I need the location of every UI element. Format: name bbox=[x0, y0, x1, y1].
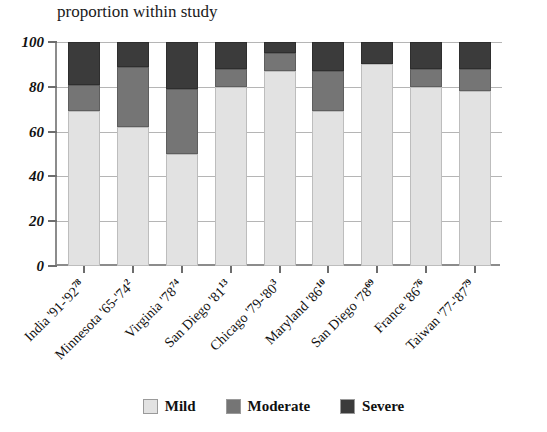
bar-group[interactable] bbox=[166, 42, 198, 266]
y-axis-tick bbox=[48, 265, 57, 267]
stacked-bar-chart: proportion within study 020406080100 Ind… bbox=[0, 0, 547, 432]
bar-segment-mild[interactable] bbox=[166, 154, 198, 266]
legend-item[interactable]: Mild bbox=[143, 398, 196, 415]
y-axis-tick bbox=[48, 131, 57, 133]
bar-segment-moderate[interactable] bbox=[459, 69, 491, 91]
bar-group[interactable] bbox=[312, 42, 344, 266]
y-axis-tick-label: 80 bbox=[29, 78, 44, 95]
bar-segment-moderate[interactable] bbox=[410, 69, 442, 87]
bar-group[interactable] bbox=[68, 42, 100, 266]
bar-segment-moderate[interactable] bbox=[312, 71, 344, 111]
bar-segment-severe[interactable] bbox=[215, 42, 247, 69]
bar-group[interactable] bbox=[410, 42, 442, 266]
bar-segment-severe[interactable] bbox=[361, 42, 393, 64]
y-axis-tick bbox=[48, 41, 57, 43]
legend-swatch-severe bbox=[340, 399, 355, 414]
legend-label: Moderate bbox=[248, 398, 310, 415]
bars-layer bbox=[57, 42, 502, 266]
legend-item[interactable]: Severe bbox=[340, 398, 404, 415]
legend-label: Mild bbox=[165, 398, 196, 415]
bar-segment-moderate[interactable] bbox=[166, 89, 198, 154]
y-axis-tick-label: 40 bbox=[29, 168, 44, 185]
legend-label: Severe bbox=[362, 398, 404, 415]
legend-item[interactable]: Moderate bbox=[226, 398, 310, 415]
bar-segment-severe[interactable] bbox=[264, 42, 296, 53]
bar-segment-mild[interactable] bbox=[68, 111, 100, 266]
bar-segment-mild[interactable] bbox=[117, 127, 149, 266]
bar-segment-moderate[interactable] bbox=[215, 69, 247, 87]
bar-segment-moderate[interactable] bbox=[117, 67, 149, 127]
bar-segment-severe[interactable] bbox=[117, 42, 149, 67]
y-axis-tick bbox=[48, 220, 57, 222]
bar-segment-moderate[interactable] bbox=[264, 53, 296, 71]
legend: MildModerateSevere bbox=[0, 398, 547, 415]
plot-area: 020406080100 bbox=[55, 42, 500, 266]
bar-segment-mild[interactable] bbox=[215, 87, 247, 266]
bar-group[interactable] bbox=[215, 42, 247, 266]
bar-group[interactable] bbox=[459, 42, 491, 266]
y-axis-tick-label: 100 bbox=[22, 34, 45, 51]
legend-swatch-mild bbox=[143, 399, 158, 414]
y-axis-tick bbox=[48, 86, 57, 88]
bar-group[interactable] bbox=[361, 42, 393, 266]
bar-segment-mild[interactable] bbox=[410, 87, 442, 266]
bar-segment-mild[interactable] bbox=[312, 111, 344, 266]
bar-segment-severe[interactable] bbox=[410, 42, 442, 69]
bar-segment-severe[interactable] bbox=[68, 42, 100, 85]
bar-segment-mild[interactable] bbox=[361, 64, 393, 266]
bar-group[interactable] bbox=[264, 42, 296, 266]
bar-segment-severe[interactable] bbox=[166, 42, 198, 89]
bar-segment-severe[interactable] bbox=[312, 42, 344, 71]
bar-group[interactable] bbox=[117, 42, 149, 266]
bar-segment-moderate[interactable] bbox=[68, 85, 100, 112]
x-axis-labels: India '91-'9278Minnesota '65-'742Virgini… bbox=[0, 268, 547, 388]
y-axis-tick bbox=[48, 175, 57, 177]
legend-swatch-moderate bbox=[226, 399, 241, 414]
y-axis-tick-label: 60 bbox=[29, 123, 44, 140]
chart-title: proportion within study bbox=[57, 2, 218, 22]
bar-segment-severe[interactable] bbox=[459, 42, 491, 69]
y-axis-tick-label: 20 bbox=[29, 213, 44, 230]
bar-segment-mild[interactable] bbox=[459, 91, 491, 266]
bar-segment-mild[interactable] bbox=[264, 71, 296, 266]
